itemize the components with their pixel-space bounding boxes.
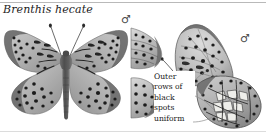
leader-line-upper	[195, 71, 207, 80]
butterfly-plate: Outer rows of black spots uniform Brenth…	[0, 0, 266, 136]
leader-line-middle	[195, 96, 214, 110]
leader-endpoint-dot	[206, 69, 209, 72]
leader-line-lower	[193, 116, 214, 122]
annotation-leader-lines	[0, 0, 266, 136]
